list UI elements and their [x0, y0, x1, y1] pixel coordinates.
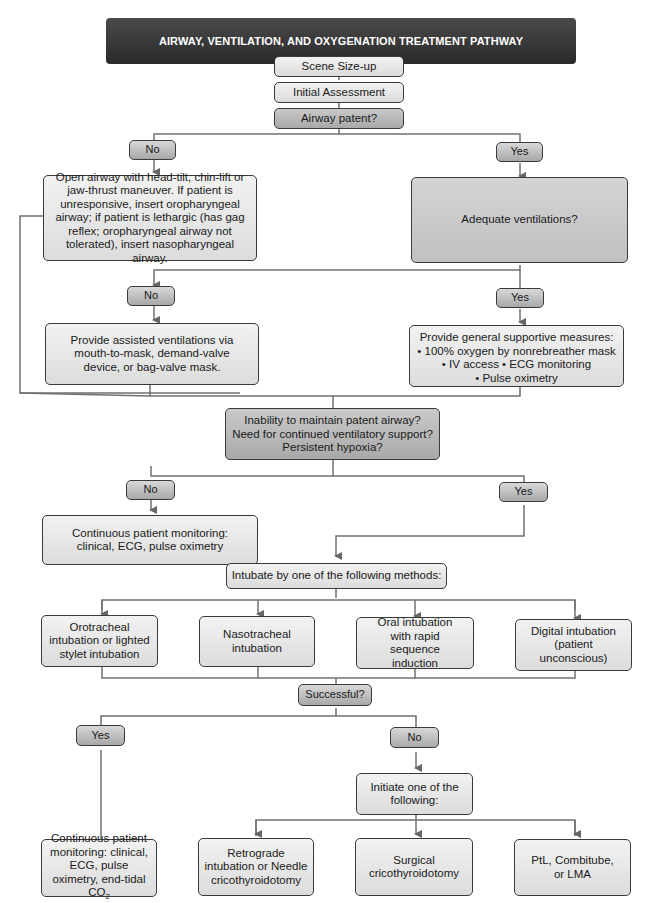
initiate-box: Initiate one of the following: [356, 773, 473, 815]
continuous-monitoring-box-1: Continuous patient monitoring: clinical,… [42, 515, 258, 565]
method-nasotracheal-label: Nasotracheal intubation [222, 628, 292, 655]
vent-no-pill: No [127, 286, 175, 306]
intubate-box: Intubate by one of the following methods… [226, 563, 447, 589]
vent-no-label: No [144, 289, 158, 303]
method-oral-rsi-label: Oral intubation with rapid sequence indu… [367, 616, 463, 670]
initial-assessment-label: Initial Assessment [293, 86, 385, 100]
inability-no-label: No [143, 483, 157, 497]
inability-line-3: Persistent hypoxia? [230, 441, 435, 455]
adequate-ventilations-label: Adequate ventilations? [461, 213, 577, 227]
airway-no-label: No [145, 143, 159, 157]
vent-yes-pill: Yes [496, 288, 544, 308]
continuous-monitoring-text-2-main: Continuous patient monitoring: clinical,… [50, 832, 148, 898]
airway-patent-label: Airway patent? [301, 112, 377, 126]
continuous-monitoring-box-2: Continuous patient monitoring: clinical,… [41, 839, 157, 897]
continuous-monitoring-text-1: Continuous patient monitoring: clinical,… [63, 527, 237, 554]
successful-label: Successful? [305, 688, 364, 702]
open-airway-text: Open airway with head-tilt, chin-lift or… [52, 171, 248, 266]
inability-no-pill: No [126, 480, 175, 500]
success-yes-pill: Yes [76, 725, 125, 746]
alt-ptl-label: PtL, Combitube, or LMA [531, 854, 614, 881]
supportive-item-pulse-ox: • Pulse oximetry [414, 372, 619, 386]
airway-yes-pill: Yes [496, 142, 543, 162]
inability-yes-label: Yes [515, 485, 533, 499]
initiate-label: Initiate one of the following: [369, 781, 460, 808]
airway-patent-decision: Airway patent? [274, 108, 404, 129]
inability-yes-pill: Yes [499, 482, 548, 502]
supportive-measures-box: Provide general supportive measures: • 1… [409, 325, 624, 387]
airway-yes-label: Yes [511, 145, 529, 159]
airway-no-pill: No [129, 140, 176, 160]
initial-assessment-box: Initial Assessment [274, 82, 404, 103]
assisted-ventilations-box: Provide assisted ventilations via mouth-… [45, 323, 259, 385]
success-yes-label: Yes [92, 729, 110, 743]
open-airway-box: Open airway with head-tilt, chin-lift or… [43, 175, 257, 261]
continuous-monitoring-text-2: Continuous patient monitoring: clinical,… [48, 832, 150, 903]
alt-surgical-cric: Surgical cricothyroidotomy [355, 838, 473, 896]
assisted-ventilations-text: Provide assisted ventilations via mouth-… [56, 334, 248, 375]
method-digital-label: Digital intubation (patient unconscious) [530, 625, 617, 666]
inability-decision: Inability to maintain patent airway? Nee… [225, 408, 440, 460]
inability-line-1: Inability to maintain patent airway? [230, 414, 435, 428]
alt-retrograde: Retrograde intubation or Needle cricothy… [198, 838, 314, 896]
successful-decision: Successful? [298, 684, 372, 706]
alt-retrograde-label: Retrograde intubation or Needle cricothy… [201, 847, 311, 888]
method-nasotracheal: Nasotracheal intubation [199, 616, 315, 667]
success-no-pill: No [390, 727, 439, 748]
method-oral-rsi: Oral intubation with rapid sequence indu… [356, 617, 474, 669]
adequate-ventilations-decision: Adequate ventilations? [411, 177, 628, 263]
method-digital: Digital intubation (patient unconscious) [515, 619, 632, 671]
scene-sizeup-box: Scene Size-up [274, 56, 404, 77]
success-no-label: No [407, 731, 421, 745]
vent-yes-label: Yes [511, 291, 529, 305]
supportive-heading: Provide general supportive measures: [414, 331, 619, 345]
method-orotracheal-label: Orotracheal intubation or lighted stylet… [46, 621, 153, 662]
co2-subscript: 2 [105, 892, 109, 901]
alt-surgical-cric-label: Surgical cricothyroidotomy [366, 854, 462, 881]
inability-line-2: Need for continued ventilatory support? [230, 428, 435, 442]
method-orotracheal: Orotracheal intubation or lighted stylet… [41, 615, 158, 667]
intubate-label: Intubate by one of the following methods… [232, 569, 442, 583]
supportive-item-iv-ecg: • IV access • ECG monitoring [414, 358, 619, 372]
alt-ptl-combitube-lma: PtL, Combitube, or LMA [514, 839, 631, 896]
supportive-item-oxygen: • 100% oxygen by nonrebreather mask [414, 345, 619, 359]
scene-sizeup-label: Scene Size-up [302, 60, 377, 74]
